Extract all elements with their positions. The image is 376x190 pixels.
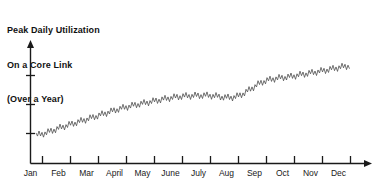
x-axis-tick-label: July <box>191 168 206 178</box>
y-axis-arrow-icon <box>27 40 34 48</box>
chart-axes <box>27 40 372 167</box>
x-axis-tick-labels: JanFebMarAprilMayJuneJulyAugSepOctNovDec <box>0 168 376 182</box>
x-axis-tick-label: June <box>161 168 179 178</box>
x-axis-tick-label: April <box>106 168 123 178</box>
x-axis-tick-label: Nov <box>303 168 318 178</box>
x-axis-tick-label: Sep <box>247 168 262 178</box>
x-axis-tick-label: Mar <box>79 168 94 178</box>
x-axis-arrow-icon <box>364 160 372 167</box>
x-axis-tick-label: Jan <box>24 168 38 178</box>
x-axis-tick-label: May <box>134 168 150 178</box>
x-axis-tick-label: Feb <box>51 168 66 178</box>
chart-plot-area <box>0 0 376 190</box>
x-axis-tick-label: Oct <box>276 168 289 178</box>
x-axis-tick-label: Dec <box>331 168 346 178</box>
chart-figure: Peak Daily Utilization On a Core Link (O… <box>0 0 376 190</box>
x-axis-tick-label: Aug <box>219 168 234 178</box>
utilization-data-line <box>36 63 350 137</box>
